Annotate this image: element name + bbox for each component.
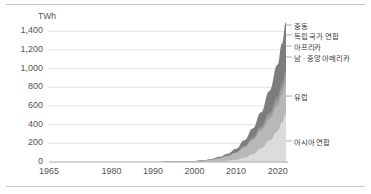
y-axis-tick-label: 1,400 (0, 25, 43, 35)
x-axis-tick-label: 1990 (136, 166, 170, 176)
series-label: 유럽 (294, 91, 308, 102)
y-axis-tick-label: 0 (0, 156, 43, 166)
x-axis-tick-label: 1980 (94, 166, 128, 176)
series-label: 남 · 중앙 아메리카 (294, 52, 349, 63)
x-axis-tick-label: 2020 (261, 166, 295, 176)
series-label: 아프리카 (294, 41, 321, 52)
x-axis-tick-label: 2000 (178, 166, 212, 176)
x-axis-tick-label: 2010 (219, 166, 253, 176)
x-axis-tick-label: 1965 (32, 166, 66, 176)
y-axis-tick-label: 800 (0, 81, 43, 91)
plot-area: TWh 1,4001,2001,0008006004002000 1965198… (0, 10, 371, 182)
y-axis-tick-label: 200 (0, 137, 43, 147)
bottom-divider-rule (6, 186, 365, 187)
series-label: 아시아 연합 (294, 136, 330, 147)
y-axis-tick-label: 600 (0, 100, 43, 110)
series-label: 독립 국가 연합 (294, 30, 339, 41)
y-axis-tick-label: 1,000 (0, 63, 43, 73)
y-axis-unit-label: TWh (38, 11, 56, 21)
y-axis-tick-label: 1,200 (0, 44, 43, 54)
y-axis-tick-label: 400 (0, 119, 43, 129)
top-divider-rule (6, 4, 365, 5)
chart-figure: TWh 1,4001,2001,0008006004002000 1965198… (0, 0, 371, 194)
